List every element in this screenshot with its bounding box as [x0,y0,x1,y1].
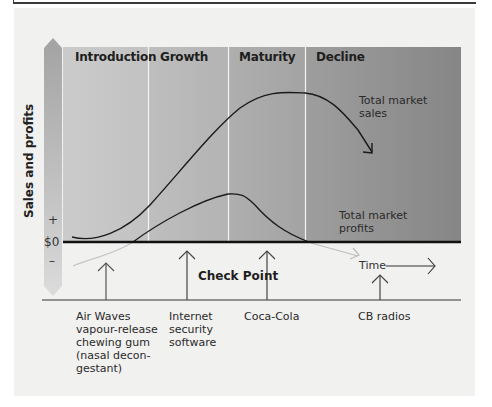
sales-curve-label: Total market sales [359,94,427,120]
time-label: Time [359,259,386,272]
phase-bg-introduction [63,47,148,242]
phase-label-growth: Growth [160,50,208,64]
phase-bg-maturity [228,47,305,242]
phase-label-introduction: Introduction [75,50,156,64]
y-tick-zero: $0 [44,235,59,249]
profits-curve-negative [73,242,133,266]
product-life-cycle-figure: Sales and profits + $0 – Introduction Gr… [0,0,492,407]
phase-bg-growth [148,47,228,242]
example-decline: CB radios [358,310,411,323]
profits-curve-label: Total market profits [339,209,407,235]
phase-label-maturity: Maturity [239,50,295,64]
checkpoint-arrow-introduction [98,263,114,300]
example-maturity: Coca-Cola [244,310,299,323]
y-tick-plus: + [48,213,58,227]
checkpoint-arrow-decline [372,275,388,300]
example-growth: Internet security software [169,310,216,349]
example-introduction: Air Waves vapour-release chewing gum (na… [76,310,158,375]
y-axis-label: Sales and profits [22,104,36,218]
profits-tail-arrowhead [350,248,359,259]
time-arrow [386,258,435,274]
y-tick-minus: – [49,254,55,268]
checkpoint-label: Check Point [198,269,278,283]
profits-curve-tail [311,243,358,256]
phase-label-decline: Decline [316,50,365,64]
checkpoint-arrow-growth [179,251,195,300]
